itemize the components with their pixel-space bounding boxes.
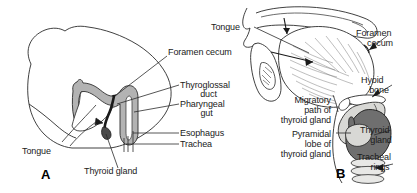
label-hyoid-bone-line1: Hyoid bbox=[361, 75, 384, 85]
label-pyramidal-lobe-line2: lobe of bbox=[261, 139, 331, 149]
label-tongue-b: Tongue bbox=[211, 22, 240, 32]
panel-letter-a: A bbox=[41, 167, 50, 182]
label-thyroid-gland: Thyroid gland bbox=[84, 166, 137, 176]
label-tracheal-rings-line1: Tracheal bbox=[357, 152, 391, 162]
figure-thyroid-development: Foramen cecum Thyroglossal duct Pharynge… bbox=[0, 0, 417, 193]
panel-letter-b: B bbox=[336, 166, 345, 181]
panel-a: Foramen cecum Thyroglossal duct Pharynge… bbox=[0, 0, 209, 193]
label-trachea: Trachea bbox=[180, 139, 212, 149]
label-foramen-cecum-b-line1: Foramen bbox=[356, 28, 391, 38]
label-migratory-path-line1: Migratory bbox=[261, 95, 331, 105]
label-migratory-path-line2: path of bbox=[261, 105, 331, 115]
label-pyramidal-lobe-line3: thyroid gland bbox=[251, 149, 331, 159]
label-tongue: Tongue bbox=[22, 146, 51, 156]
label-hyoid-bone-line2: bone bbox=[361, 85, 397, 95]
nose-profile bbox=[243, 8, 256, 47]
label-thyroid-gland-b-line2: gland bbox=[360, 135, 402, 145]
migratory-path-arrowhead-2 bbox=[283, 28, 290, 34]
panel-b: Tongue Foramen cecum Hyoid bone Migrator… bbox=[209, 0, 417, 193]
label-foramen-cecum-b-line2: cecum bbox=[356, 38, 404, 48]
panel-a-illustration bbox=[0, 0, 209, 193]
label-thyroid-gland-b-line1: Thyroid bbox=[360, 125, 389, 135]
label-tracheal-rings-line2: rings bbox=[357, 162, 403, 172]
label-pyramidal-lobe-line1: Pyramidal bbox=[261, 129, 331, 139]
embryo-head-outline bbox=[28, 26, 171, 148]
gut-lumen bbox=[126, 96, 132, 140]
label-migratory-path-line3: thyroid gland bbox=[251, 115, 331, 125]
